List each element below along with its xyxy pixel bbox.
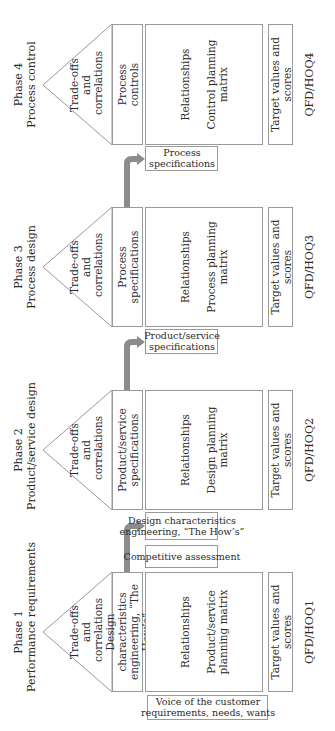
phase-number: Phase 1 [12,572,25,692]
competitive-assessment-box: Competitive assessment [145,545,218,568]
target-box-phase2: Target values and scores [268,390,293,510]
phase2-input-box: Design characteristics engineering, “The… [145,512,218,540]
phase-title: Process design [25,207,38,327]
qfd-label-phase1: QFD/HOQ1 [303,572,316,692]
qfd-label-phase3: QFD/HOQ3 [303,207,316,327]
specs-box-phase2: Product/servicespecifications [112,390,143,510]
target-box-phase4: Target values and scores [268,24,293,145]
phase-4-label: Phase 4 Process control [12,24,38,145]
phase-2-label: Phase 2 Product/service design [12,390,38,510]
qfd-label-phase4: QFD/HOQ4 [303,24,316,145]
roof-text-phase2: Trade-offsandcorrelations [68,420,104,480]
phase-number: Phase 2 [12,390,25,510]
arrowhead-icon [137,153,145,165]
matrix-box-phase3: Relationships Process planningmatrix [145,207,263,327]
specs-box-phase3: Processspecifications [112,207,143,327]
phase3-input-box: Product/service specifications [145,329,218,354]
matrix-title: Relationships [179,231,191,303]
phase-1-label: Phase 1 Performance requirements [12,572,38,692]
phase-number: Phase 3 [12,207,25,327]
matrix-box-phase1: Relationships Product/serviceplanning ma… [145,572,263,692]
matrix-title: Relationships [179,414,191,486]
flow-arrow-3-to-4 [127,159,138,207]
roof-text-phase3: Trade-offsandcorrelations [68,237,104,297]
phase-title: Product/service design [25,390,38,510]
qfd-four-phase-diagram: Phase 1 Performance requirements Trade-o… [0,0,335,731]
qfd-label-phase2: QFD/HOQ2 [303,390,316,510]
phase-3-label: Phase 3 Process design [12,207,38,327]
matrix-box-phase4: Relationships Control planningmatrix [145,24,263,145]
target-box-phase1: Target values and scores [268,572,293,692]
phase-number: Phase 4 [12,24,25,145]
phase-title: Process control [25,24,38,145]
specs-box-phase4: Processcontrols [112,24,143,145]
specs-box-phase1: Design characteristicsengineering, “The … [112,572,143,692]
target-box-phase3: Target values and scores [268,207,293,327]
matrix-title: Relationships [179,48,191,120]
matrix-box-phase2: Relationships Design planningmatrix [145,390,263,510]
voice-of-customer-box: Voice of the customer requirements, need… [147,695,268,720]
phase4-input-box: Process specifications [145,146,218,171]
flow-arrow-2-to-3 [127,342,138,390]
roof-text-phase4: Trade-offsandcorrelations [68,55,104,115]
matrix-title: Relationships [179,596,191,668]
phase-title: Performance requirements [25,572,38,692]
roof-text-phase1: Trade-offsandcorrelations [68,602,104,662]
